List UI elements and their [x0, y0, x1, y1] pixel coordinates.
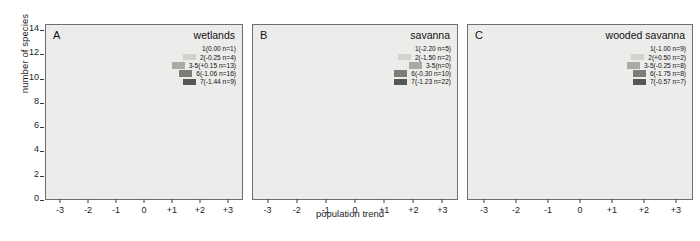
- y-tick-label: 4: [34, 144, 39, 154]
- bar-slot: [428, 31, 457, 199]
- panel-c-plot: -3-2-10+1+2+3: [468, 25, 692, 199]
- bar-slot: [628, 31, 660, 199]
- y-tick-mark: [40, 151, 44, 152]
- bar-slot: [186, 31, 214, 199]
- x-tick-mark: [580, 199, 581, 203]
- x-tick-mark: [484, 199, 485, 203]
- bar-slot: [660, 31, 692, 199]
- y-tick-mark: [40, 30, 44, 31]
- y-tick-label: 2: [34, 169, 39, 179]
- bar-slot: [311, 31, 340, 199]
- x-tick-mark: [267, 199, 268, 203]
- panel-c: C wooded savanna 1(-1.00 n=9)2(+0.50 n=2…: [467, 24, 693, 200]
- x-tick-mark: [228, 199, 229, 203]
- panel-a: A wetlands 1(0.00 n=1)2(-0.25 n=4)3-5(+0…: [45, 24, 243, 200]
- x-tick-mark: [548, 199, 549, 203]
- bar-slot: [102, 31, 130, 199]
- y-tick-label: 14: [29, 23, 39, 33]
- x-tick-mark: [172, 199, 173, 203]
- panel-a-bars: [46, 31, 242, 199]
- bar-slot: [370, 31, 399, 199]
- bar-slot: [46, 31, 74, 199]
- x-tick-mark: [612, 199, 613, 203]
- y-tick-label: 0: [34, 193, 39, 203]
- y-tick-mark: [40, 103, 44, 104]
- bar-slot: [468, 31, 500, 199]
- bar-slot: [282, 31, 311, 199]
- figure-root: number of species 02468101214 A wetlands…: [0, 0, 700, 241]
- y-tick-mark: [40, 54, 44, 55]
- panel-b-plot: -3-2-10+1+2+3: [253, 25, 457, 199]
- bar-slot: [564, 31, 596, 199]
- x-tick-mark: [60, 199, 61, 203]
- bar-slot: [74, 31, 102, 199]
- y-tick-mark: [40, 127, 44, 128]
- x-tick-mark: [355, 199, 356, 203]
- x-tick-mark: [88, 199, 89, 203]
- panel-c-bars: [468, 31, 692, 199]
- y-tick-mark: [40, 176, 44, 177]
- bar-slot: [399, 31, 428, 199]
- bar-slot: [532, 31, 564, 199]
- x-tick-mark: [413, 199, 414, 203]
- x-tick-mark: [325, 199, 326, 203]
- x-tick-mark: [384, 199, 385, 203]
- y-tick-label: 6: [34, 120, 39, 130]
- x-tick-mark: [644, 199, 645, 203]
- y-tick-label: 8: [34, 96, 39, 106]
- y-tick-mark: [40, 79, 44, 80]
- y-tick-mark: [40, 200, 44, 201]
- panel-b-bars: [253, 31, 457, 199]
- bar-slot: [596, 31, 628, 199]
- y-tick-label: 10: [29, 72, 39, 82]
- bar-slot: [340, 31, 369, 199]
- bar-slot: [214, 31, 242, 199]
- x-tick-mark: [296, 199, 297, 203]
- panel-b: B savanna 1(-2.20 n=5)2(-1.50 n=2)3-5(n=…: [252, 24, 458, 200]
- panel-a-plot: -3-2-10+1+2+3: [46, 25, 242, 199]
- bar-slot: [130, 31, 158, 199]
- bar-slot: [500, 31, 532, 199]
- bar-slot: [158, 31, 186, 199]
- x-tick-mark: [144, 199, 145, 203]
- x-axis-label: population trend: [0, 208, 700, 219]
- x-tick-mark: [516, 199, 517, 203]
- x-tick-mark: [442, 199, 443, 203]
- y-axis-ticks: 02468101214: [20, 24, 44, 200]
- y-tick-label: 12: [29, 47, 39, 57]
- x-tick-mark: [200, 199, 201, 203]
- bar-slot: [253, 31, 282, 199]
- x-tick-mark: [676, 199, 677, 203]
- x-tick-mark: [116, 199, 117, 203]
